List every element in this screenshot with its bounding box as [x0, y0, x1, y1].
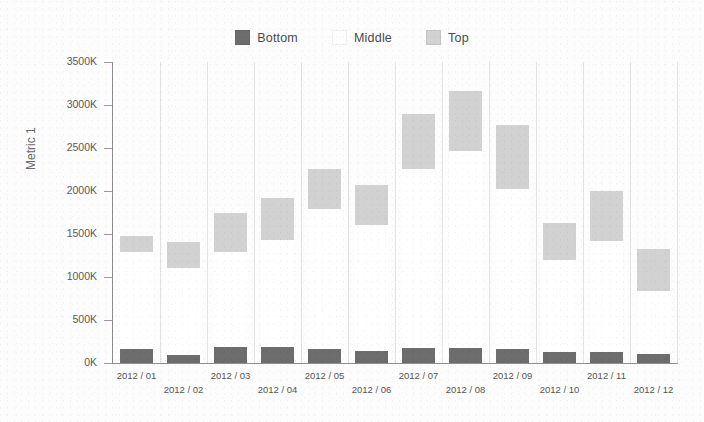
y-axis-tick-label: 2500K: [37, 141, 97, 153]
bar-segment-top[interactable]: [167, 242, 200, 267]
legend-swatch-icon: [426, 30, 441, 45]
bar-group[interactable]: [308, 62, 341, 363]
bar-segment-bottom[interactable]: [449, 348, 482, 363]
bar-segment-bottom[interactable]: [543, 352, 576, 363]
legend-label: Top: [448, 31, 469, 45]
legend-label: Bottom: [257, 31, 298, 45]
bar-segment-top[interactable]: [308, 169, 341, 209]
bar-segment-bottom[interactable]: [637, 354, 670, 363]
bar-segment-top[interactable]: [120, 236, 153, 252]
bar-segment-bottom[interactable]: [402, 348, 435, 363]
y-axis-title: Metric 1: [24, 127, 38, 170]
chart-container: BottomMiddleTop Metric 1 0K500K1000K1500…: [0, 0, 704, 422]
gridline: [301, 62, 302, 363]
legend-label: Middle: [354, 31, 392, 45]
bar-segment-top[interactable]: [590, 191, 623, 241]
gridline: [677, 62, 678, 363]
bar-group[interactable]: [590, 62, 623, 363]
gridline: [442, 62, 443, 363]
bar-segment-top[interactable]: [637, 249, 670, 291]
bar-group[interactable]: [355, 62, 388, 363]
y-axis-tick: [104, 234, 112, 235]
bar-segment-top[interactable]: [496, 125, 529, 189]
y-axis-tick-label: 3500K: [37, 55, 97, 67]
x-axis-tick-label: 2012 / 12: [624, 384, 684, 395]
bar-segment-bottom[interactable]: [308, 349, 341, 363]
bar-segment-top[interactable]: [355, 185, 388, 225]
y-axis-tick: [104, 191, 112, 192]
bar-segment-bottom[interactable]: [214, 347, 247, 363]
y-axis-tick: [104, 277, 112, 278]
gridline: [160, 62, 161, 363]
chart-legend: BottomMiddleTop: [0, 30, 704, 45]
bar-group[interactable]: [496, 62, 529, 363]
bar-group[interactable]: [637, 62, 670, 363]
bar-segment-middle[interactable]: [261, 240, 294, 347]
bar-segment-bottom[interactable]: [167, 355, 200, 363]
bar-segment-middle[interactable]: [120, 252, 153, 349]
x-axis-tick-label: 2012 / 09: [483, 370, 543, 381]
bar-segment-middle[interactable]: [167, 268, 200, 355]
bar-segment-middle[interactable]: [637, 291, 670, 354]
y-axis-tick: [104, 148, 112, 149]
y-axis-tick: [104, 320, 112, 321]
bar-segment-top[interactable]: [543, 223, 576, 260]
bar-segment-top[interactable]: [214, 213, 247, 253]
y-axis-tick-label: 3000K: [37, 98, 97, 110]
y-axis-tick-label: 1500K: [37, 227, 97, 239]
plot-area: 0K500K1000K1500K2000K2500K3000K3500K2012…: [113, 62, 677, 363]
gridline: [348, 62, 349, 363]
y-axis-tick: [104, 363, 112, 364]
legend-item-top[interactable]: Top: [426, 30, 469, 45]
x-axis-tick-label: 2012 / 02: [154, 384, 214, 395]
x-axis-tick-label: 2012 / 07: [389, 370, 449, 381]
bar-segment-middle[interactable]: [449, 151, 482, 348]
gridline: [254, 62, 255, 363]
gridline: [583, 62, 584, 363]
y-axis-tick-label: 1000K: [37, 270, 97, 282]
bar-segment-middle[interactable]: [214, 252, 247, 347]
bar-group[interactable]: [120, 62, 153, 363]
bar-segment-bottom[interactable]: [261, 347, 294, 363]
x-axis-tick-label: 2012 / 03: [201, 370, 261, 381]
gridline: [536, 62, 537, 363]
y-axis-tick: [104, 105, 112, 106]
bar-segment-middle[interactable]: [590, 241, 623, 352]
x-axis-tick-label: 2012 / 05: [295, 370, 355, 381]
legend-swatch-icon: [235, 30, 250, 45]
bar-group[interactable]: [543, 62, 576, 363]
x-axis-tick-label: 2012 / 06: [342, 384, 402, 395]
bar-segment-middle[interactable]: [308, 209, 341, 350]
bar-segment-middle[interactable]: [355, 225, 388, 351]
x-axis-tick-label: 2012 / 11: [577, 370, 637, 381]
bar-group[interactable]: [402, 62, 435, 363]
bar-segment-bottom[interactable]: [355, 351, 388, 363]
bar-group[interactable]: [214, 62, 247, 363]
bar-group[interactable]: [167, 62, 200, 363]
bar-segment-middle[interactable]: [402, 169, 435, 348]
x-axis-tick-label: 2012 / 10: [530, 384, 590, 395]
legend-item-bottom[interactable]: Bottom: [235, 30, 298, 45]
bar-segment-bottom[interactable]: [496, 349, 529, 363]
bar-segment-middle[interactable]: [496, 189, 529, 349]
y-axis-line: [112, 62, 113, 363]
bar-segment-top[interactable]: [261, 198, 294, 240]
y-axis-tick-label: 0K: [37, 356, 97, 368]
y-axis-tick: [104, 62, 112, 63]
y-axis-tick-label: 500K: [37, 313, 97, 325]
bar-segment-bottom[interactable]: [120, 349, 153, 363]
x-axis-line: [112, 363, 678, 364]
bar-group[interactable]: [261, 62, 294, 363]
gridline: [395, 62, 396, 363]
bar-segment-top[interactable]: [449, 91, 482, 151]
x-axis-tick-label: 2012 / 04: [248, 384, 308, 395]
y-axis-tick-label: 2000K: [37, 184, 97, 196]
bar-segment-top[interactable]: [402, 114, 435, 169]
legend-item-middle[interactable]: Middle: [332, 30, 392, 45]
gridline: [207, 62, 208, 363]
bar-segment-middle[interactable]: [543, 260, 576, 352]
bar-segment-bottom[interactable]: [590, 352, 623, 363]
x-axis-tick-label: 2012 / 08: [436, 384, 496, 395]
bar-group[interactable]: [449, 62, 482, 363]
gridline: [489, 62, 490, 363]
